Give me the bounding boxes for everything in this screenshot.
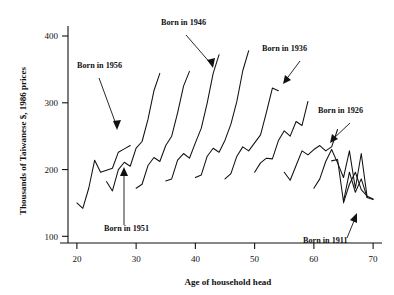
x-tick-label-40: 40 bbox=[191, 254, 201, 264]
annotation-labels: Born in 1956Born in 1946Born in 1936Born… bbox=[77, 18, 363, 245]
y-axis-ticks: 100200300400 bbox=[45, 31, 69, 241]
annotation-born-in-1951: Born in 1951 bbox=[104, 224, 149, 233]
x-tick-label-30: 30 bbox=[132, 254, 142, 264]
y-tick-label-100: 100 bbox=[45, 232, 59, 242]
arrowhead-1956 bbox=[113, 120, 121, 130]
series-born-in-1946 bbox=[195, 51, 248, 178]
chart-figure: Thousands of Taiwanese $, 1986 prices Ag… bbox=[0, 0, 394, 295]
series-born-in-1966 bbox=[77, 146, 130, 209]
x-tick-label-20: 20 bbox=[72, 254, 82, 264]
series-group bbox=[77, 51, 373, 209]
annotation-born-in-1946: Born in 1946 bbox=[161, 18, 206, 27]
cohort-line-chart: Thousands of Taiwanese $, 1986 prices Ag… bbox=[0, 0, 394, 295]
y-tick-label-200: 200 bbox=[45, 165, 59, 175]
x-tick-label-50: 50 bbox=[250, 254, 260, 264]
series-born-in-1961 bbox=[107, 73, 160, 191]
series-born-in-1926 bbox=[314, 150, 367, 198]
annotation-born-in-1911: Born in 1911 bbox=[303, 236, 348, 245]
arrowhead-1936 bbox=[283, 75, 291, 84]
x-axis-title: Age of household head bbox=[185, 277, 272, 287]
annotation-born-in-1956: Born in 1956 bbox=[77, 61, 122, 70]
annotation-leaders bbox=[99, 35, 357, 238]
series-born-in-1936 bbox=[255, 101, 308, 172]
y-tick-label-400: 400 bbox=[45, 31, 59, 41]
arrowhead-1911 bbox=[350, 213, 357, 223]
x-tick-label-70: 70 bbox=[369, 254, 379, 264]
annotation-born-in-1936: Born in 1936 bbox=[262, 44, 307, 53]
x-axis-ticks: 203040506070 bbox=[72, 243, 378, 264]
series-born-in-1941 bbox=[225, 88, 278, 179]
arrowhead-1946 bbox=[207, 58, 215, 68]
leader-1956 bbox=[99, 78, 117, 127]
y-axis-title: Thousands of Taiwanese $, 1986 prices bbox=[18, 66, 28, 215]
series-born-in-1951 bbox=[166, 55, 219, 181]
series-born-in-1956 bbox=[136, 71, 189, 188]
annotation-born-in-1926: Born in 1926 bbox=[318, 106, 363, 115]
arrowhead-1951 bbox=[120, 167, 128, 176]
y-tick-label-300: 300 bbox=[45, 98, 59, 108]
x-tick-label-60: 60 bbox=[309, 254, 319, 264]
